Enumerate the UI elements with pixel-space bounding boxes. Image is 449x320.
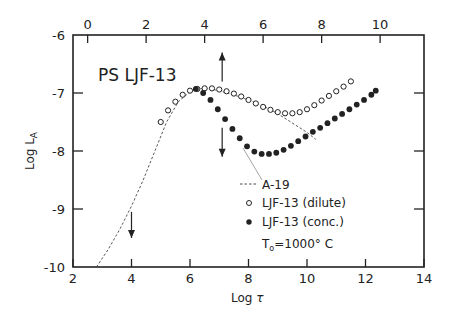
conc-point bbox=[354, 102, 360, 108]
conc-point bbox=[222, 116, 228, 122]
axis-ticks: 24681012140246810-6-7-8-9-10 bbox=[44, 17, 433, 286]
dilute-point bbox=[180, 92, 185, 97]
top-tick-label: 10 bbox=[372, 17, 389, 32]
conc-point bbox=[281, 147, 287, 153]
dilute-point bbox=[282, 111, 287, 116]
conc-point bbox=[295, 138, 301, 144]
temperature-annotation: To=1000° C bbox=[261, 237, 333, 253]
x-tick-label: 4 bbox=[127, 271, 135, 286]
y-tick-label: -10 bbox=[44, 260, 65, 275]
conc-point bbox=[373, 88, 379, 94]
x-axis-label: Log τ bbox=[231, 291, 264, 305]
conc-point bbox=[303, 134, 309, 140]
dilute-point bbox=[334, 89, 339, 94]
x-tick-label: 12 bbox=[357, 271, 374, 286]
top-tick-label: 2 bbox=[142, 17, 150, 32]
conc-point bbox=[266, 151, 272, 157]
dilute-point bbox=[173, 99, 178, 104]
dilute-point bbox=[275, 110, 280, 115]
top-tick-label: 0 bbox=[83, 17, 91, 32]
dilute-point bbox=[304, 107, 309, 112]
conc-point bbox=[259, 151, 265, 157]
legend-conc-marker bbox=[246, 219, 251, 224]
conc-point bbox=[200, 90, 206, 96]
dilute-point bbox=[348, 79, 353, 84]
conc-point bbox=[244, 143, 250, 149]
x-tick-label: 6 bbox=[186, 271, 194, 286]
chart: 24681012140246810-6-7-8-9-10 PS LJF-13 L… bbox=[0, 0, 449, 320]
conc-point bbox=[332, 116, 338, 122]
dilute-point bbox=[297, 110, 302, 115]
x-tick-label: 8 bbox=[244, 271, 252, 286]
chart-title: PS LJF-13 bbox=[98, 65, 176, 85]
conc-point bbox=[251, 149, 257, 155]
x-tick-label: 14 bbox=[416, 271, 433, 286]
dilute-point bbox=[217, 87, 222, 92]
dilute-point bbox=[253, 101, 258, 106]
conc-point bbox=[230, 126, 236, 132]
conc-point bbox=[237, 135, 243, 141]
conc-point bbox=[339, 111, 345, 117]
conc-point bbox=[273, 150, 279, 156]
dilute-point bbox=[209, 86, 214, 91]
svg-text:Log τ: Log τ bbox=[231, 291, 264, 305]
dilute-point bbox=[290, 111, 295, 116]
dilute-point bbox=[239, 94, 244, 99]
dilute-point bbox=[341, 84, 346, 89]
conc-point bbox=[361, 97, 367, 103]
dilute-point bbox=[224, 89, 229, 94]
dilute-point bbox=[165, 108, 170, 113]
conc-point bbox=[310, 129, 316, 135]
dilute-point bbox=[319, 98, 324, 103]
top-tick-label: 4 bbox=[200, 17, 208, 32]
y-tick-label: -6 bbox=[52, 28, 65, 43]
conc-point bbox=[288, 143, 294, 149]
legend: A-19 LJF-13 (dilute) LJF-13 (conc.) To=1… bbox=[240, 178, 346, 253]
legend-a19-label: A-19 bbox=[262, 178, 290, 192]
y-tick-label: -9 bbox=[52, 202, 65, 217]
conc-point bbox=[193, 86, 199, 92]
conc-point bbox=[325, 120, 331, 126]
dilute-point bbox=[246, 97, 251, 102]
dilute-point bbox=[326, 93, 331, 98]
top-tick-label: 8 bbox=[317, 17, 325, 32]
legend-dilute-label: LJF-13 (dilute) bbox=[262, 196, 346, 210]
arrowhead-icon bbox=[219, 52, 226, 60]
legend-dilute-marker bbox=[247, 201, 252, 206]
legend-conc-label: LJF-13 (conc.) bbox=[262, 215, 344, 229]
arrowhead-icon bbox=[128, 230, 135, 238]
y-tick-label: -7 bbox=[52, 86, 65, 101]
conc-point bbox=[317, 125, 323, 131]
dilute-point bbox=[268, 107, 273, 112]
top-tick-label: 6 bbox=[259, 17, 267, 32]
dilute-point bbox=[312, 103, 317, 108]
dilute-point bbox=[231, 91, 236, 96]
conc-point bbox=[368, 92, 374, 98]
x-tick-label: 10 bbox=[299, 271, 316, 286]
arrowhead-icon bbox=[219, 149, 226, 157]
x-tick-label: 2 bbox=[69, 271, 77, 286]
dilute-point bbox=[158, 119, 163, 124]
dilute-point bbox=[261, 104, 266, 109]
conc-point bbox=[347, 106, 353, 112]
dilute-point bbox=[187, 88, 192, 93]
svg-text:Log LA: Log LA bbox=[23, 131, 39, 170]
conc-point bbox=[215, 106, 221, 112]
conc-point bbox=[208, 97, 214, 103]
y-tick-label: -8 bbox=[52, 144, 65, 159]
data-curves bbox=[96, 79, 378, 267]
y-axis-label: Log LA bbox=[23, 131, 39, 170]
